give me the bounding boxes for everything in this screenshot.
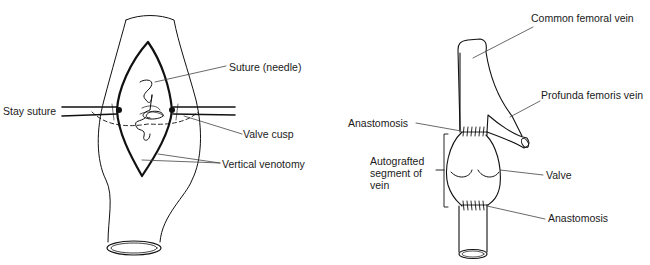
label-valve: Valve [546, 169, 572, 181]
right-vein-figure [416, 27, 545, 259]
venotomy-incision [117, 42, 172, 176]
label-anastomosis-bottom: Anastomosis [548, 212, 608, 224]
anastomosis-stitches-top [462, 127, 487, 136]
label-anastomosis-top: Anastomosis [348, 117, 408, 129]
label-suture-needle: Suture (needle) [229, 61, 301, 73]
common-femoral-vein-shape [458, 39, 522, 136]
label-autografted-segment: Autografted segment of vein [370, 155, 424, 191]
left-vein-figure [62, 16, 242, 256]
autografted-segment [447, 132, 501, 206]
label-common-femoral-vein: Common femoral vein [531, 12, 634, 24]
profunda-femoris-branch [487, 115, 529, 148]
label-profunda-femoris-vein: Profunda femoris vein [541, 89, 643, 101]
anastomosis-stitches-bottom [462, 201, 488, 210]
vein-outline [126, 16, 201, 243]
label-vertical-venotomy: Vertical venotomy [222, 158, 305, 170]
label-stay-suture: Stay suture [3, 105, 56, 117]
diagram-canvas [0, 0, 650, 265]
valve-cusps [451, 170, 499, 177]
label-valve-cusp: Valve cusp [243, 128, 294, 140]
suture-thread [136, 80, 163, 140]
